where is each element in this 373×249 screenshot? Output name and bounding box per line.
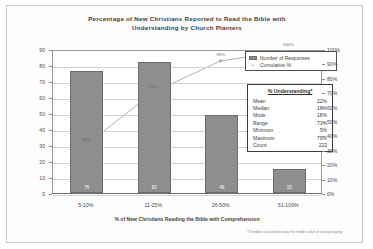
statistics-row-label: Minimum: [253, 127, 273, 133]
gridline: [53, 195, 321, 196]
y-axis-right-tick-label: 90%: [327, 61, 349, 67]
y-axis-right-tick-mark: [322, 64, 325, 65]
y-axis-right-tick-label: 30%: [327, 148, 349, 154]
cumulative-data-point: [219, 60, 221, 62]
y-axis-right-tick-mark: [322, 165, 325, 166]
statistics-row-value: 5%: [320, 127, 327, 133]
y-axis-right-tick-mark: [322, 151, 325, 152]
y-axis-left-tick-mark: [49, 130, 52, 131]
y-axis-right-tick-mark: [322, 136, 325, 137]
statistics-row-value: 222: [319, 142, 327, 148]
y-axis-left-tick-mark: [49, 194, 52, 195]
y-axis-left-tick-label: 90: [29, 47, 45, 53]
statistics-row-label: Count: [253, 142, 266, 148]
statistics-row: Range71%: [248, 119, 332, 126]
chart-title-line-1: Percentage of New Christians Reported to…: [47, 15, 327, 24]
y-axis-right-tick-label: 80%: [327, 76, 349, 82]
y-axis-right-tick-label: 50%: [327, 119, 349, 125]
statistics-row-value: 22%: [317, 98, 327, 104]
chart-title-line-2: Understanding by Church Planters: [47, 24, 327, 33]
y-axis-right-tick-label: 100%: [327, 47, 349, 53]
y-axis-right-tick-mark: [322, 93, 325, 94]
statistics-row: Maximum76%: [248, 134, 332, 141]
x-axis-category-label: 51-100%: [254, 202, 322, 208]
y-axis-left-tick-label: 10: [29, 175, 45, 181]
y-axis-right-tick-mark: [322, 180, 325, 181]
chart-legend: Number of Responses ▪ Cumulative %: [245, 51, 337, 71]
legend-bar-swatch-icon: [249, 56, 257, 60]
y-axis-right-tick-label: 70%: [327, 90, 349, 96]
y-axis-right-tick-mark: [322, 50, 325, 51]
bar: 76: [70, 71, 103, 193]
y-axis-left-tick-label: 70: [29, 79, 45, 85]
statistics-row-label: Mode: [253, 112, 266, 118]
x-axis-category-label: 5-10%: [52, 202, 120, 208]
y-axis-right-tick-label: 60%: [327, 105, 349, 111]
statistics-row-label: Median: [253, 105, 269, 111]
legend-point-marker-icon: ▪: [249, 63, 257, 67]
cumulative-value-label: 34%: [76, 137, 96, 142]
cumulative-value-label: 100%: [278, 42, 298, 47]
y-axis-left-tick-label: 30: [29, 143, 45, 149]
y-axis-left-tick-label: 40: [29, 127, 45, 133]
statistics-row: Count222: [248, 141, 332, 148]
statistics-row-label: Range: [253, 120, 268, 126]
y-axis-left-tick-label: 20: [29, 159, 45, 165]
y-axis-left-tick-label: 80: [29, 63, 45, 69]
bar-value-label: 15: [274, 185, 305, 190]
y-axis-left-tick-label: 50: [29, 111, 45, 117]
y-axis-left-tick-label: 60: [29, 95, 45, 101]
x-axis-category-label: 26-50%: [187, 202, 255, 208]
y-axis-right-tick-label: 0%: [327, 191, 349, 197]
statistics-row-label: Maximum: [253, 135, 275, 141]
statistics-table: % Understanding* Mean22%Median18%Mode18%…: [247, 84, 333, 152]
y-axis-right-tick-label: 20%: [327, 162, 349, 168]
cumulative-value-label: 93%: [211, 52, 231, 57]
statistics-row: Minimum5%: [248, 127, 332, 134]
chart-footnote: *Trendline calculated using the middle v…: [232, 230, 357, 234]
cumulative-value-label: 71%: [143, 84, 163, 89]
statistics-row: Mode18%: [248, 112, 332, 119]
y-axis-right-tick-label: 40%: [327, 133, 349, 139]
y-axis-left-tick-mark: [49, 146, 52, 147]
y-axis-right-tick-mark: [322, 108, 325, 109]
y-axis-left-tick-label: 0: [29, 191, 45, 197]
chart-container: Percentage of New Christians Reported to…: [6, 5, 363, 243]
bar-value-label: 82: [139, 185, 170, 190]
statistics-row-value: 18%: [317, 112, 327, 118]
y-axis-left-tick-mark: [49, 178, 52, 179]
chart-title: Percentage of New Christians Reported to…: [47, 15, 327, 32]
y-axis-left-tick-mark: [49, 162, 52, 163]
statistics-row: Median18%: [248, 104, 332, 111]
legend-label-cumulative: Cumulative %: [260, 62, 291, 68]
y-axis-right-tick-mark: [322, 194, 325, 195]
statistics-row-label: Mean: [253, 98, 266, 104]
bar-value-label: 49: [206, 185, 237, 190]
statistics-table-body: Mean22%Median18%Mode18%Range71%Minimum5%…: [248, 97, 332, 149]
y-axis-left-tick-mark: [49, 50, 52, 51]
y-axis-right-tick-label: 10%: [327, 177, 349, 183]
y-axis-right-tick-mark: [322, 79, 325, 80]
legend-item-cumulative: ▪ Cumulative %: [249, 61, 333, 68]
y-axis-left-tick-mark: [49, 98, 52, 99]
y-axis-left-tick-mark: [49, 66, 52, 67]
bar: 82: [138, 62, 171, 193]
legend-item-responses: Number of Responses: [249, 54, 333, 61]
bar: 49: [205, 115, 238, 193]
bar: 15: [273, 169, 306, 193]
y-axis-left-tick-mark: [49, 114, 52, 115]
legend-label-responses: Number of Responses: [260, 55, 310, 61]
y-axis-right-tick-mark: [322, 122, 325, 123]
statistics-table-title: % Understanding*: [248, 87, 332, 97]
x-axis-category-label: 11-25%: [119, 202, 187, 208]
statistics-row: Mean22%: [248, 97, 332, 104]
y-axis-left-tick-mark: [49, 82, 52, 83]
bar-value-label: 76: [71, 185, 102, 190]
x-axis-title: % of New Christians Reading the Bible wi…: [52, 216, 322, 222]
